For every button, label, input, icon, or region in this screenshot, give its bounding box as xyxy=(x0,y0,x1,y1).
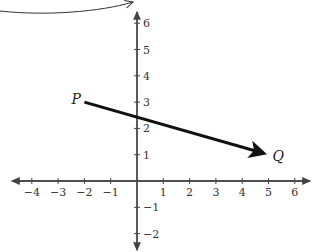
x-tick-label: 4 xyxy=(239,186,246,199)
coordinate-plane: −4−3−2−1123456 654321−1−2 P Q xyxy=(0,0,315,252)
y-tick-label: −2 xyxy=(143,228,159,241)
x-tick-label: −2 xyxy=(76,186,92,199)
x-tick-label: 6 xyxy=(291,186,298,199)
point-p-label: P xyxy=(70,91,81,107)
y-tick-label: 5 xyxy=(143,44,150,57)
y-tick-label: 2 xyxy=(143,122,150,135)
x-tick-label: 3 xyxy=(212,186,219,199)
y-tick-label: 3 xyxy=(143,96,150,109)
x-tick-label: 2 xyxy=(186,186,193,199)
y-tick-label: 4 xyxy=(143,70,150,83)
x-tick-label: 1 xyxy=(160,186,167,199)
y-tick-label: −1 xyxy=(143,201,159,214)
point-q-label: Q xyxy=(273,148,285,164)
vector-pq xyxy=(84,102,262,153)
x-tick-label: 5 xyxy=(265,186,272,199)
x-tick-label: −4 xyxy=(24,186,40,199)
y-tick-label: 1 xyxy=(143,149,150,162)
y-tick-label: 6 xyxy=(143,17,150,30)
x-tick-label: −1 xyxy=(103,186,119,199)
y-axis-ticks: 654321−1−2 xyxy=(134,17,159,240)
annotation-curved-arrow xyxy=(0,2,133,13)
x-tick-label: −3 xyxy=(50,186,66,199)
